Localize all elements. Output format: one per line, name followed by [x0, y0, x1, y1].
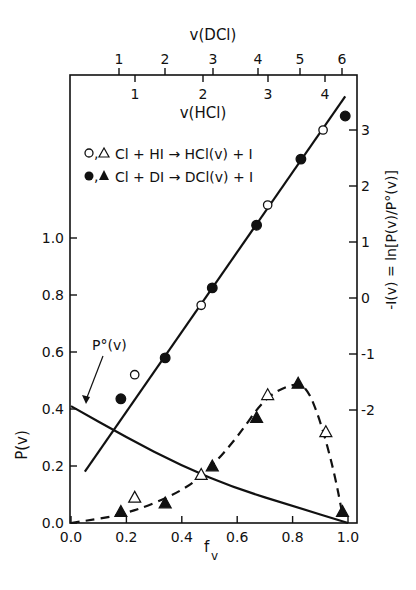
y-left-tick-label: 0.8 [42, 287, 64, 303]
data-point-circle [252, 220, 262, 230]
data-point-triangle [159, 497, 171, 508]
data-point-triangle [320, 426, 332, 437]
data-point-circle [296, 154, 306, 164]
top-dcl-tick-label: 5 [296, 51, 305, 67]
prior-annotation-arrow [86, 356, 103, 400]
data-point-circle [340, 111, 350, 121]
y-right-tick-label: -2 [361, 402, 375, 418]
data-point-circle [319, 126, 327, 134]
top-axis-title-dcl: v(DCl) [190, 26, 237, 44]
top-dcl-tick-label: 6 [338, 51, 347, 67]
fit-curve [71, 385, 342, 523]
y-left-tick-label: 0.6 [42, 344, 64, 360]
x-tick-label: 0.0 [60, 529, 82, 545]
top-axis-title-hcl: v(HCl) [180, 104, 227, 122]
x-tick-label: 1.0 [337, 529, 359, 545]
y-right-tick-label: -1 [361, 346, 375, 362]
svg-text:f: f [204, 538, 210, 556]
data-point-triangle [129, 491, 141, 502]
top-dcl-tick-label: 3 [209, 51, 218, 67]
top-dcl-tick-label: 2 [161, 51, 170, 67]
y-right-tick-label: 0 [361, 290, 370, 306]
data-point-triangle [195, 469, 207, 480]
top-hcl-tick-label: 1 [131, 86, 140, 102]
top-dcl-tick-label: 1 [115, 51, 124, 67]
top-hcl-tick-label: 2 [199, 86, 208, 102]
y-left-tick-label: 1.0 [42, 230, 64, 246]
x-tick-label: 0.8 [281, 529, 303, 545]
legend-label-dcl: Cl + DI → DCl(v) + I [115, 169, 253, 185]
y-left-axis-title: P(v) [13, 430, 31, 460]
data-point-circle [116, 394, 126, 404]
data-point-circle [131, 371, 139, 379]
prior-annotation-label: P°(v) [92, 337, 127, 353]
svg-text:,: , [94, 145, 98, 161]
chart: 0.00.20.40.60.81.00.00.20.40.60.81.0-2-1… [0, 0, 416, 590]
x-tick-label: 0.2 [115, 529, 137, 545]
y-right-axis-title: -I(v) = ln[P(v)/P°(v)] [383, 170, 399, 310]
top-hcl-tick-label: 3 [264, 86, 273, 102]
data-point-circle [263, 201, 271, 209]
x-tick-label: 0.4 [171, 529, 193, 545]
y-right-tick-label: 1 [361, 234, 370, 250]
data-point-circle [207, 283, 217, 293]
data-point-triangle [336, 506, 348, 517]
legend: , Cl + HI → HCl(v) + I , Cl + DI → DCl(v… [85, 145, 254, 185]
legend-label-hcl: Cl + HI → HCl(v) + I [115, 146, 253, 162]
axis-ticks [70, 68, 357, 523]
svg-text:v: v [211, 549, 218, 563]
data-point-triangle [292, 377, 304, 388]
y-right-tick-label: 3 [361, 122, 370, 138]
data-point-circle [197, 301, 205, 309]
y-right-tick-label: 2 [361, 178, 370, 194]
top-dcl-tick-label: 4 [254, 51, 263, 67]
y-left-tick-label: 0.4 [42, 401, 64, 417]
y-left-tick-label: 0.2 [42, 458, 64, 474]
x-axis-title: f v [204, 538, 218, 563]
data-point-triangle [115, 506, 127, 517]
y-left-tick-label: 0.0 [42, 515, 64, 531]
top-hcl-tick-label: 4 [321, 86, 330, 102]
data-point-circle [160, 353, 170, 363]
svg-text:,: , [94, 168, 98, 184]
x-tick-label: 0.6 [226, 529, 248, 545]
data-point-triangle [206, 460, 218, 471]
